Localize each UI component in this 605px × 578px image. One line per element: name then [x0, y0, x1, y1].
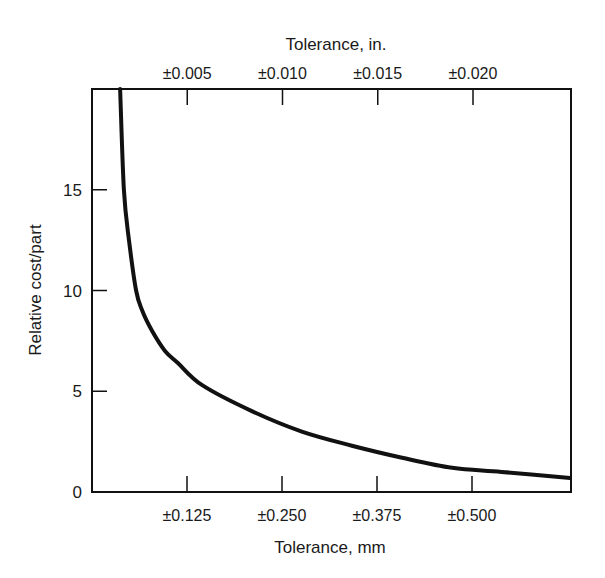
x-tick-label: ±0.375 — [353, 507, 402, 524]
plot-frame — [92, 89, 571, 492]
y-axis-ticks: 051015 — [63, 181, 107, 502]
bottom-axis-title: Tolerance, mm — [274, 538, 385, 557]
top-axis-title: Tolerance, in. — [285, 35, 386, 54]
y-tick-label: 5 — [73, 382, 82, 401]
y-axis-title: Relative cost/part — [26, 224, 45, 356]
x2-tick-label: ±0.015 — [353, 65, 402, 82]
x2-tick-label: ±0.010 — [258, 65, 307, 82]
bottom-axis-ticks: ±0.125±0.250±0.375±0.500 — [163, 476, 497, 524]
x2-tick-label: ±0.020 — [449, 65, 498, 82]
x-tick-label: ±0.250 — [258, 507, 307, 524]
y-tick-label: 0 — [73, 483, 82, 502]
x2-tick-label: ±0.005 — [163, 65, 212, 82]
cost-tolerance-chart: Tolerance, in. ±0.005±0.010±0.015±0.020 … — [0, 0, 605, 578]
x-tick-label: ±0.125 — [163, 507, 212, 524]
cost-curve — [120, 89, 570, 478]
y-tick-label: 10 — [63, 282, 82, 301]
top-axis-ticks: ±0.005±0.010±0.015±0.020 — [163, 65, 498, 105]
x-tick-label: ±0.500 — [448, 507, 497, 524]
y-tick-label: 15 — [63, 181, 82, 200]
